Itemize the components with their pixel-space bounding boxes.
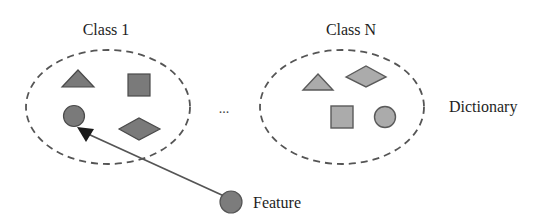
class-n-label: Class N xyxy=(326,21,377,38)
class-1-square-icon xyxy=(128,74,150,96)
feature-label: Feature xyxy=(253,194,301,211)
class-n-circle-icon xyxy=(375,107,396,128)
feature-arrow xyxy=(77,127,224,196)
class-1-diamond-icon xyxy=(119,118,160,140)
class-n-square-icon xyxy=(331,106,353,128)
class-1-boundary xyxy=(26,50,190,164)
class-n-triangle-icon xyxy=(303,74,333,90)
dictionary-diagram: Class 1 ... Class N Dictionary Feature xyxy=(0,0,560,222)
class-1-circle-icon xyxy=(64,106,85,127)
dictionary-label: Dictionary xyxy=(449,98,517,116)
ellipsis-separator: ... xyxy=(219,101,230,116)
arrow-line xyxy=(88,134,224,196)
class-1-triangle-icon xyxy=(62,70,94,87)
class-n-group: Class N xyxy=(260,21,424,164)
feature-node-icon xyxy=(220,191,242,213)
class-n-diamond-icon xyxy=(346,66,386,87)
feature-group: Feature xyxy=(220,191,301,213)
arrow-head-icon xyxy=(77,127,94,142)
class-1-label: Class 1 xyxy=(83,21,130,38)
